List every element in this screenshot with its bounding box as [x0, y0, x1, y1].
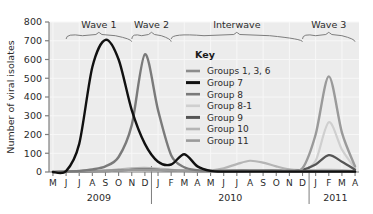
x-month-label: N	[128, 178, 135, 188]
x-month-label: M	[49, 178, 57, 188]
y-tick-label: 500	[24, 73, 42, 84]
x-month-label: A	[89, 178, 96, 188]
x-month-label: J	[156, 178, 160, 188]
x-month-label: M	[207, 178, 215, 188]
y-tick-label: 700	[24, 35, 42, 46]
x-month-label: J	[221, 178, 225, 188]
legend-label: Group 8-1	[207, 101, 252, 111]
y-tick-label: 800	[24, 16, 42, 27]
x-month-label: M	[180, 178, 188, 188]
x-month-label: M	[338, 178, 346, 188]
y-tick-label: 200	[24, 129, 42, 140]
legend-label: Group 7	[207, 78, 243, 88]
y-axis-title: Number of viral isolates	[5, 40, 16, 153]
x-year-label: 2010	[218, 192, 242, 203]
x-month-label: A	[352, 178, 359, 188]
x-month-label: S	[103, 178, 109, 188]
y-axis-tick-labels: 0100200300400500600700800	[24, 16, 42, 177]
y-tick-label: 100	[24, 148, 42, 159]
x-month-label: N	[286, 178, 293, 188]
y-tick-label: 300	[24, 110, 42, 121]
y-tick-label: 400	[24, 91, 42, 102]
legend-label: Group 11	[207, 136, 249, 146]
chart-figure: 0100200300400500600700800 Number of vira…	[0, 0, 373, 214]
legend-label: Groups 1, 3, 6	[207, 66, 271, 76]
x-month-label: F	[169, 178, 174, 188]
x-month-label: J	[64, 178, 68, 188]
x-month-label: A	[194, 178, 201, 188]
wave-label: Interwave	[213, 19, 261, 30]
y-tick-label: 0	[36, 166, 42, 177]
x-month-label: S	[260, 178, 266, 188]
viral-isolates-line-chart: 0100200300400500600700800 Number of vira…	[0, 0, 373, 214]
x-month-label: D	[141, 178, 148, 188]
x-month-label: D	[299, 178, 306, 188]
x-month-label: J	[235, 178, 239, 188]
x-year-label: 2011	[323, 192, 347, 203]
x-month-label: A	[247, 178, 254, 188]
legend-label: Group 8	[207, 90, 243, 100]
y-tick-label: 600	[24, 54, 42, 65]
legend-label: Group 9	[207, 113, 243, 123]
x-month-label: F	[326, 178, 331, 188]
wave-label: Wave 2	[134, 19, 169, 30]
x-month-label: O	[115, 178, 122, 188]
x-year-label: 2009	[87, 192, 111, 203]
legend-title: Key	[195, 49, 216, 60]
x-month-label: O	[273, 178, 280, 188]
legend-label: Group 10	[207, 124, 249, 134]
wave-label: Wave 1	[81, 19, 116, 30]
wave-label: Wave 3	[311, 19, 346, 30]
x-month-label: J	[313, 178, 317, 188]
x-month-label: J	[77, 178, 81, 188]
